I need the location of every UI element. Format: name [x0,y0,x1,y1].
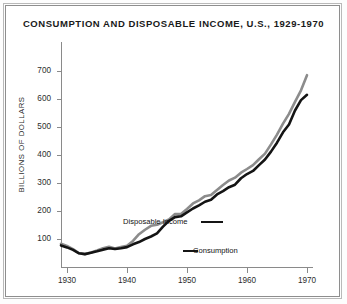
plot-area: 100200300400500600700 193019401950196019… [61,42,313,268]
annotation-consumption: Consumption [193,246,238,255]
x-tick-mark [247,268,248,273]
y-tick-label: 600 [11,94,51,103]
y-tick-label: 300 [11,178,51,187]
x-tick-label: 1940 [107,276,147,285]
y-tick-label: 500 [11,122,51,131]
series-layer [61,42,313,268]
x-tick-label: 1950 [167,276,207,285]
annotation-disposable-income: Disposable Income [123,217,188,226]
chart-figure: CONSUMPTION AND DISPOSABLE INCOME, U.S.,… [0,0,347,304]
line-consumption [61,95,307,254]
line-disposable-income [61,75,307,254]
x-tick-mark [67,268,68,273]
x-tick-mark [127,268,128,273]
y-tick-label: 400 [11,150,51,159]
y-tick-label: 700 [11,66,51,75]
page-title: CONSUMPTION AND DISPOSABLE INCOME, U.S.,… [0,18,347,29]
x-tick-mark [307,268,308,273]
x-tick-label: 1930 [47,276,87,285]
x-tick-label: 1960 [227,276,267,285]
y-tick-label: 100 [11,234,51,243]
x-tick-mark [187,268,188,273]
annotation-leader-disposable-income [201,221,223,223]
x-tick-label: 1970 [287,276,327,285]
y-tick-label: 200 [11,206,51,215]
